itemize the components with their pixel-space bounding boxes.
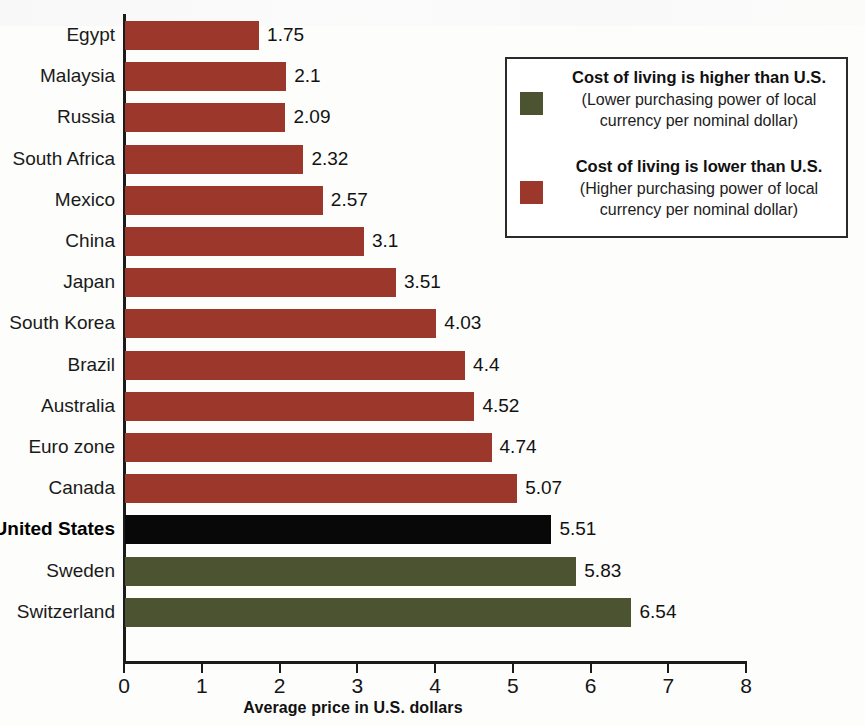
category-label: Malaysia <box>40 65 115 87</box>
bar-value-label: 2.09 <box>293 106 330 128</box>
category-label: Australia <box>41 395 115 417</box>
legend-text-lower: Cost of living is lower than U.S. (Highe… <box>555 155 843 220</box>
x-axis-tick <box>356 664 358 673</box>
x-axis-tick <box>667 664 669 673</box>
category-label: Mexico <box>55 189 115 211</box>
category-label: South Korea <box>9 312 115 334</box>
bar <box>125 557 576 586</box>
bar-row: South Korea4.03 <box>0 309 865 338</box>
x-axis-tick-label: 5 <box>493 674 533 698</box>
bar-value-label: 1.75 <box>267 24 304 46</box>
bar-row: United States5.51 <box>0 515 865 544</box>
x-axis-tick <box>279 664 281 673</box>
bar-row: Sweden5.83 <box>0 557 865 586</box>
bar <box>125 433 492 462</box>
legend-sub-higher-line1: (Lower purchasing power of local <box>555 89 843 110</box>
x-axis-tick <box>745 664 747 673</box>
bar-row: Switzerland6.54 <box>0 598 865 627</box>
category-label: South Africa <box>13 148 115 170</box>
bar-chart: 012345678 Egypt1.75Malaysia2.1Russia2.09… <box>0 0 865 725</box>
bar <box>125 103 285 132</box>
bar-value-label: 4.03 <box>444 312 481 334</box>
bar-value-label: 2.1 <box>294 65 320 87</box>
bar-row: Brazil4.4 <box>0 351 865 380</box>
bar-value-label: 4.4 <box>473 354 499 376</box>
bar <box>125 515 551 544</box>
x-axis-tick-label: 8 <box>726 674 766 698</box>
legend-sub-higher-line2: currency per nominal dollar) <box>555 110 843 131</box>
legend-swatch-red <box>520 181 543 204</box>
legend-sub-lower-line1: (Higher purchasing power of local <box>555 178 843 199</box>
bar-value-label: 5.83 <box>584 560 621 582</box>
bar-value-label: 3.1 <box>372 230 398 252</box>
category-label: Euro zone <box>28 436 115 458</box>
x-axis-tick <box>590 664 592 673</box>
x-axis-tick <box>123 664 125 673</box>
legend-sub-lower-line2: currency per nominal dollar) <box>555 199 843 220</box>
bar <box>125 351 465 380</box>
x-axis-tick <box>434 664 436 673</box>
bar-value-label: 3.51 <box>404 271 441 293</box>
bar <box>125 186 323 215</box>
x-axis-tick <box>512 664 514 673</box>
category-label: Sweden <box>46 560 115 582</box>
category-label: Japan <box>63 271 115 293</box>
bar-row: Australia4.52 <box>0 392 865 421</box>
legend-text-higher: Cost of living is higher than U.S. (Lowe… <box>555 66 843 131</box>
bar <box>125 62 286 91</box>
bar-row: Egypt1.75 <box>0 21 865 50</box>
bar-value-label: 5.51 <box>559 518 596 540</box>
category-label: United States <box>0 518 115 540</box>
bar-value-label: 5.07 <box>525 477 562 499</box>
x-axis-tick-label: 3 <box>337 674 377 698</box>
x-axis-tick-label: 2 <box>260 674 300 698</box>
category-label: China <box>65 230 115 252</box>
bar <box>125 392 474 421</box>
legend-heading-lower: Cost of living is lower than U.S. <box>555 155 843 178</box>
bar <box>125 598 631 627</box>
legend: Cost of living is higher than U.S. (Lowe… <box>505 57 848 238</box>
category-label: Switzerland <box>17 601 115 623</box>
x-axis-tick-label: 4 <box>415 674 455 698</box>
bar-value-label: 2.32 <box>311 148 348 170</box>
bar-value-label: 4.52 <box>482 395 519 417</box>
category-label: Egypt <box>66 24 115 46</box>
bar-row: Japan3.51 <box>0 268 865 297</box>
legend-swatch-green <box>520 92 543 115</box>
bar <box>125 21 259 50</box>
x-axis-tick <box>201 664 203 673</box>
bar-value-label: 6.54 <box>639 601 676 623</box>
x-axis-tick-label: 0 <box>104 674 144 698</box>
bar <box>125 145 303 174</box>
category-label: Brazil <box>67 354 115 376</box>
x-axis-tick-label: 1 <box>182 674 222 698</box>
legend-heading-higher: Cost of living is higher than U.S. <box>555 66 843 89</box>
x-axis-title: Average price in U.S. dollars <box>123 699 583 717</box>
bar-value-label: 4.74 <box>500 436 537 458</box>
bar <box>125 268 396 297</box>
bar <box>125 227 364 256</box>
bar <box>125 474 517 503</box>
bar-row: Canada5.07 <box>0 474 865 503</box>
x-axis-tick-label: 7 <box>648 674 688 698</box>
bar-value-label: 2.57 <box>331 189 368 211</box>
bar <box>125 309 436 338</box>
bar-row: Euro zone4.74 <box>0 433 865 462</box>
x-axis-tick-label: 6 <box>571 674 611 698</box>
category-label: Canada <box>48 477 115 499</box>
category-label: Russia <box>57 106 115 128</box>
